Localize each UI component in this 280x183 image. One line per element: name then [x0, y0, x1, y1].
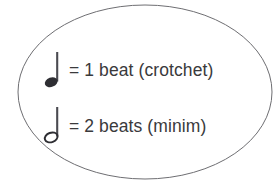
note-values-figure: = 1 beat (crotchet) = 2 beats (minim) [0, 0, 280, 183]
crotchet-label: = 1 beat (crotchet) [69, 62, 213, 80]
crotchet-note-icon [40, 48, 66, 94]
minim-note-icon [40, 104, 66, 150]
note-row-crotchet: = 1 beat (crotchet) [40, 48, 213, 94]
note-rows: = 1 beat (crotchet) = 2 beats (minim) [0, 0, 280, 183]
minim-label: = 2 beats (minim) [69, 118, 206, 136]
note-row-minim: = 2 beats (minim) [40, 104, 206, 150]
minim-notehead-hollow [43, 131, 59, 144]
